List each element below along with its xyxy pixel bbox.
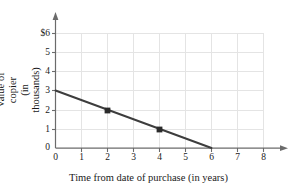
x-tick-label: 5 bbox=[178, 152, 194, 162]
x-tick-label: 6 bbox=[204, 152, 220, 162]
x-tick-label: 0 bbox=[48, 152, 64, 162]
y-axis-title: Value of copier (in thousands) bbox=[0, 67, 43, 113]
x-tick-label: 1 bbox=[74, 152, 90, 162]
data-point-marker bbox=[157, 127, 163, 133]
x-tick-label: 2 bbox=[100, 152, 116, 162]
y-axis-title-line-1: Value of copier bbox=[0, 67, 19, 113]
y-axis-arrow bbox=[53, 12, 59, 20]
x-axis-title: Time from date of purchase (in years) bbox=[0, 172, 297, 184]
x-tick-label: 4 bbox=[152, 152, 168, 162]
x-tick-label: 8 bbox=[256, 152, 272, 162]
x-axis-arrow bbox=[280, 145, 288, 151]
x-tick-label: 3 bbox=[126, 152, 142, 162]
data-point-marker bbox=[105, 108, 111, 114]
chart-container: $6 5 4 3 2 1 0 0 1 2 3 4 5 6 7 8 Value o… bbox=[0, 0, 297, 194]
x-tick-label: 7 bbox=[230, 152, 246, 162]
y-axis-title-line-2: (in thousands) bbox=[19, 67, 43, 113]
y-axis-title-container: Value of copier (in thousands) bbox=[4, 30, 34, 150]
